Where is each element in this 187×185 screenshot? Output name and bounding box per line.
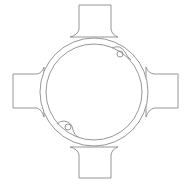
- junction-box-diagram: [0, 0, 187, 185]
- conduit-arm-right: [146, 67, 178, 117]
- outer-ring: [40, 38, 148, 146]
- conduit-arm-top: [70, 5, 118, 37]
- conduit-arm-bottom: [70, 147, 118, 178]
- conduit-arm-left: [13, 67, 44, 117]
